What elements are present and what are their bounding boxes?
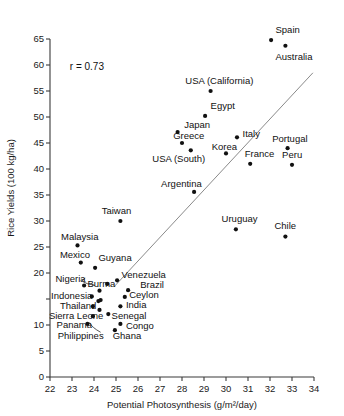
point-label: Korea [212, 141, 238, 152]
point-label: Congo [126, 320, 154, 331]
x-tick-label: 30 [221, 383, 232, 394]
data-point [283, 235, 287, 239]
point-label: Egypt [211, 100, 236, 111]
point-label: Ghana [113, 330, 142, 341]
data-point [209, 89, 213, 93]
x-tick-label: 22 [45, 383, 56, 394]
y-axis-title: Rice Yields (100 kg/ha) [5, 139, 16, 237]
point-label: Guyana [98, 252, 132, 263]
y-tick-label: 0 [39, 371, 44, 382]
x-tick-label: 28 [177, 383, 188, 394]
x-tick-label: 32 [265, 383, 276, 394]
point-label: Malaysia [61, 231, 99, 242]
point-label: Uruguay [222, 213, 258, 224]
data-point [118, 322, 122, 326]
data-point [192, 190, 196, 194]
y-tick-label: 55 [33, 85, 44, 96]
point-label: Spain [276, 24, 300, 35]
data-point [180, 141, 184, 145]
data-point [283, 44, 287, 48]
data-point [106, 312, 110, 316]
y-tick-label: 20 [33, 267, 44, 278]
data-point [99, 298, 103, 302]
x-tick-label: 25 [111, 383, 122, 394]
data-point [189, 148, 193, 152]
x-tick-label: 23 [67, 383, 78, 394]
y-tick-label: 50 [33, 111, 44, 122]
data-point [248, 162, 252, 166]
x-tick-label: 24 [89, 383, 100, 394]
y-tick-label: 10 [33, 319, 44, 330]
point-label: Australia [276, 51, 314, 62]
point-label: Mexico [60, 249, 90, 260]
point-label: Taiwan [102, 205, 132, 216]
x-axis-title: Potential Photosynthesis (g/m²/day) [107, 399, 257, 410]
point-label: Panama [57, 319, 93, 330]
data-point [224, 151, 228, 155]
y-tick-label: 45 [33, 137, 44, 148]
x-tick-label: 26 [133, 383, 144, 394]
data-point [118, 219, 122, 223]
x-tick-label: 34 [309, 383, 320, 394]
point-label: Nigeria [56, 273, 87, 284]
point-label: USA (California) [185, 75, 253, 86]
data-point [234, 227, 238, 231]
data-point [93, 266, 97, 270]
plot-background [0, 0, 344, 416]
x-tick-label: 29 [199, 383, 210, 394]
data-point [97, 289, 101, 293]
point-label: Senegal [112, 310, 147, 321]
x-tick-label: 31 [243, 383, 254, 394]
point-label: France [245, 148, 275, 159]
data-point [82, 283, 86, 287]
correlation-annotation: r = 0.73 [70, 61, 105, 72]
x-tick-label: 33 [287, 383, 298, 394]
data-point [79, 261, 83, 265]
point-label: Japan [184, 119, 210, 130]
scatter-chart-figure: SpainAustraliaUSA (California)EgyptJapan… [0, 0, 344, 416]
data-point [290, 163, 294, 167]
point-label: Burma [87, 278, 116, 289]
point-label: Peru [282, 149, 302, 160]
y-tick-label: 65 [33, 33, 44, 44]
y-tick-label: 40 [33, 163, 44, 174]
data-point [235, 135, 239, 139]
y-tick-label: 30 [33, 215, 44, 226]
point-label: India [126, 299, 147, 310]
point-label: Argentina [161, 178, 202, 189]
point-label: Chile [274, 220, 296, 231]
point-label: Italy [243, 128, 261, 139]
point-label: Philippines [58, 330, 104, 341]
point-label: Greece [173, 130, 204, 141]
data-point [118, 304, 122, 308]
y-tick-label: 60 [33, 59, 44, 70]
y-tick-label: 25 [33, 241, 44, 252]
point-label: Portugal [272, 133, 307, 144]
x-tick-label: 27 [155, 383, 166, 394]
data-point [203, 114, 207, 118]
data-point [115, 278, 119, 282]
y-tick-label: 35 [33, 189, 44, 200]
data-point [269, 38, 273, 42]
y-tick-label: 5 [39, 345, 44, 356]
data-point [75, 243, 79, 247]
plot-svg: SpainAustraliaUSA (California)EgyptJapan… [0, 0, 344, 416]
annotation-group: r = 0.73 [70, 61, 105, 72]
point-label: USA (South) [152, 153, 205, 164]
